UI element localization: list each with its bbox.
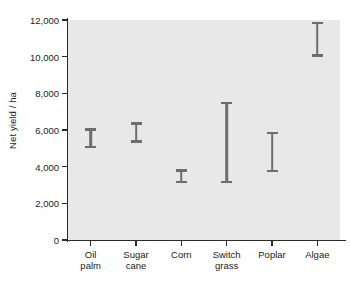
y-axis-tick (62, 239, 68, 240)
y-axis-tick-label: 12,000 (30, 15, 59, 26)
plot-area (68, 20, 340, 240)
x-axis-line (62, 240, 346, 241)
range-bar-cap-bottom (85, 146, 96, 148)
x-axis-tick-label-line: grass (213, 260, 241, 271)
x-axis-tick-label: Poplar (258, 249, 285, 260)
x-axis-tick-label: Algae (305, 249, 329, 260)
y-axis-title-label: Net yield / ha (7, 92, 18, 149)
range-bar (131, 122, 142, 143)
x-axis-tick-label: Switchgrass (213, 249, 241, 271)
x-axis-tick-label-line: Switch (213, 249, 241, 260)
x-axis-tick-label-line: Sugar (123, 249, 148, 260)
y-axis-title: Net yield / ha (2, 0, 22, 240)
range-bar-cap-top (267, 132, 278, 134)
range-bar (221, 102, 232, 184)
range-bar-stem (316, 22, 319, 57)
x-axis-tick-label-line: cane (123, 260, 148, 271)
range-bar-cap-top (131, 122, 142, 124)
range-bar-cap-top (221, 102, 232, 104)
x-axis-tick (317, 241, 318, 246)
range-bar (312, 22, 323, 57)
x-axis-tick (226, 241, 227, 246)
range-bar-stem (225, 102, 228, 184)
x-axis-tick-label: Sugarcane (123, 249, 148, 271)
y-axis-tick (62, 166, 68, 167)
range-bar-cap-bottom (267, 170, 278, 172)
y-axis-tick (62, 56, 68, 57)
chart-container: Net yield / ha 02,0004,0006,0008,00010,0… (0, 0, 350, 284)
y-axis-tick-label: 8,000 (35, 88, 59, 99)
x-axis-tick-label-line: Algae (305, 249, 329, 260)
range-bar (176, 169, 187, 183)
y-axis-tick (62, 93, 68, 94)
range-bar-cap-top (176, 169, 187, 171)
y-axis-tick-label: 2,000 (35, 198, 59, 209)
range-bar (267, 132, 278, 172)
x-axis-tick (135, 241, 136, 246)
y-axis-tick (62, 129, 68, 130)
range-bar (85, 128, 96, 148)
range-bar-cap-top (312, 22, 323, 24)
x-axis-tick (90, 241, 91, 246)
x-axis-tick-label-line: Poplar (258, 249, 285, 260)
x-axis-tick-label-line: palm (80, 260, 101, 271)
y-axis-tick-label: 0 (54, 235, 59, 246)
range-bar-cap-bottom (131, 140, 142, 142)
range-bar-cap-bottom (312, 54, 323, 56)
y-axis-tick-label: 4,000 (35, 161, 59, 172)
x-axis-tick (181, 241, 182, 246)
x-axis-tick-label-line: Corn (171, 249, 192, 260)
range-bar-stem (271, 132, 274, 172)
y-axis-tick (62, 19, 68, 20)
y-axis-tick (62, 203, 68, 204)
range-bar-cap-bottom (221, 181, 232, 183)
x-axis-tick (271, 241, 272, 246)
y-axis-tick-label: 10,000 (30, 51, 59, 62)
x-axis-tick-label: Corn (171, 249, 192, 260)
y-axis-tick-label: 6,000 (35, 125, 59, 136)
x-axis-tick-label-line: Oil (80, 249, 101, 260)
range-bar-cap-top (85, 128, 96, 130)
x-axis-tick-label: Oilpalm (80, 249, 101, 271)
range-bar-cap-bottom (176, 181, 187, 183)
